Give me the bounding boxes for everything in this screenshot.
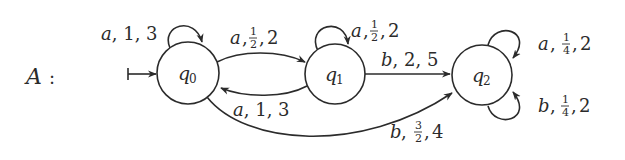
- label-weight-denominator: 2: [371, 31, 378, 44]
- label-q0-to-q2: b , 3 2 , 4: [390, 119, 443, 145]
- label-sep: ,: [242, 27, 248, 48]
- state-q1-index: 1: [336, 73, 344, 87]
- edge-q1-to-q0: [221, 86, 307, 95]
- label-sep: ,: [244, 99, 255, 120]
- svg-text:b, 2, 5: b, 2, 5: [381, 49, 438, 70]
- label-symbol: a: [233, 99, 244, 120]
- label-weight: 2: [404, 49, 415, 70]
- label-weight-numerator: 1: [250, 25, 257, 38]
- label-symbol: a: [230, 27, 241, 48]
- state-q0: q 0: [157, 42, 219, 104]
- label-sep: ,: [550, 33, 556, 54]
- label-weight-numerator: 1: [563, 31, 570, 44]
- label-symbol: b: [381, 49, 393, 70]
- label-sep: ,: [571, 95, 577, 116]
- label-q2-self-loop-a: a , 1 4 , 2: [538, 31, 591, 57]
- label-weight: 1: [123, 23, 134, 44]
- label-q1-to-q0: a, 1, 3: [233, 99, 290, 120]
- label-weight-numerator: 1: [562, 93, 569, 106]
- automaton-name-label: A :: [24, 64, 55, 89]
- state-q2-index: 2: [483, 74, 491, 88]
- label-sep: ,: [112, 23, 123, 44]
- svg-text:a, 1, 3: a, 1, 3: [233, 99, 290, 120]
- label-sep: ,: [550, 95, 556, 116]
- label-symbol: a: [351, 20, 362, 41]
- label-cost: 2: [267, 27, 278, 48]
- label-weight: 1: [255, 99, 266, 120]
- label-weight-denominator: 2: [250, 38, 257, 51]
- automaton-name: A: [24, 64, 42, 89]
- automaton-name-colon: :: [49, 67, 55, 88]
- label-symbol: b: [390, 121, 402, 142]
- label-cost: 3: [146, 23, 157, 44]
- label-sep: ,: [424, 121, 430, 142]
- svg-text:a, 1, 3: a, 1, 3: [101, 23, 158, 44]
- label-q2-self-loop-b: b , 1 4 , 2: [538, 93, 590, 119]
- label-q0-self-loop: a, 1, 3: [101, 23, 158, 44]
- label-symbol: a: [538, 33, 549, 54]
- state-q2: q 2: [452, 45, 512, 105]
- label-cost: 4: [432, 121, 443, 142]
- label-sep: ,: [415, 49, 426, 70]
- weighted-automaton-diagram: A : q 0 q 1 q 2 a, 1, 3: [0, 0, 625, 160]
- label-symbol: b: [538, 95, 550, 116]
- label-sep: ,: [363, 20, 369, 41]
- label-sep: ,: [401, 121, 407, 142]
- label-weight-denominator: 4: [563, 44, 570, 57]
- label-sep: ,: [267, 99, 278, 120]
- label-sep: ,: [572, 33, 578, 54]
- label-symbol: a: [101, 23, 112, 44]
- label-q1-self-loop: a , 1 2 , 2: [351, 18, 399, 44]
- label-cost: 2: [388, 20, 399, 41]
- label-cost: 3: [278, 99, 289, 120]
- label-sep: ,: [135, 23, 146, 44]
- edge-q0-to-q1: [217, 53, 305, 62]
- label-sep: ,: [259, 27, 265, 48]
- initial-state-arrow: [128, 68, 156, 80]
- state-q0-index: 0: [189, 72, 197, 86]
- label-sep: ,: [380, 20, 386, 41]
- label-q1-to-q2: b, 2, 5: [381, 49, 438, 70]
- label-cost: 2: [580, 33, 591, 54]
- label-weight-denominator: 2: [415, 132, 422, 145]
- state-q1: q 1: [305, 44, 365, 104]
- label-q0-to-q1: a , 1 2 , 2: [230, 25, 278, 51]
- label-weight-denominator: 4: [562, 106, 569, 119]
- label-cost: 5: [427, 49, 438, 70]
- label-cost: 2: [579, 95, 590, 116]
- label-weight-numerator: 3: [415, 119, 422, 132]
- label-weight-numerator: 1: [371, 18, 378, 31]
- label-sep: ,: [393, 49, 404, 70]
